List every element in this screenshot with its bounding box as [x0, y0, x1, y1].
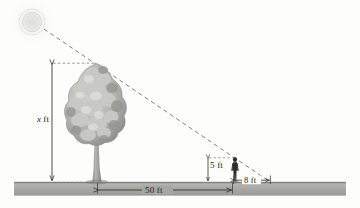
label-person-to-shadow-tip: 8 ft	[244, 175, 256, 185]
diagram-svg	[0, 0, 360, 208]
sun-icon	[10, 0, 54, 44]
standing-person-silhouette	[231, 157, 239, 183]
label-tree-height: xft	[37, 114, 49, 124]
label-tree-to-person: 50 ft	[145, 185, 163, 195]
deciduous-tree	[65, 64, 127, 185]
ground-strip	[14, 182, 346, 195]
diagram-canvas: xft 5 ft 50 ft 8 ft	[0, 0, 360, 208]
label-person-height: 5 ft	[210, 160, 223, 170]
label-tree-height-unit: ft	[43, 114, 49, 124]
label-tree-height-variable: x	[37, 114, 41, 124]
